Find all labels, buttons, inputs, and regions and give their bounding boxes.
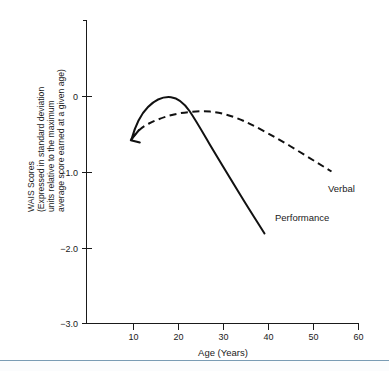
y-tick-label-0: 0 [73, 92, 78, 102]
x-tick-label-50: 50 [308, 332, 318, 342]
x-tick-label-60: 60 [353, 332, 363, 342]
bottom-strip [0, 361, 389, 371]
y-axis-title-line-1: WAIS Scores [26, 161, 36, 212]
y-axis-title-line-2: (Expressed in standard deviation [36, 87, 46, 212]
series-label-performance: Performance [275, 212, 329, 223]
y-tick-label-minus2: −2.0 [60, 244, 78, 254]
wais-scores-line-chart: 0 −1.0 −2.0 −3.0 10 20 30 40 50 60 Age (… [0, 0, 389, 371]
y-axis-title-line-4: average score earned at a given age) [56, 69, 66, 212]
x-tick-label-10: 10 [128, 332, 138, 342]
x-tick-label-30: 30 [218, 332, 228, 342]
y-axis-title-line-3: units relative to the maximum [46, 100, 56, 212]
x-tick-label-40: 40 [263, 332, 273, 342]
x-axis-title: Age (Years) [198, 347, 248, 358]
series-label-verbal: Verbal [328, 183, 355, 194]
chart-figure: 0 −1.0 −2.0 −3.0 10 20 30 40 50 60 Age (… [0, 0, 389, 371]
y-tick-label-minus3: −3.0 [60, 319, 78, 329]
x-tick-label-20: 20 [173, 332, 183, 342]
